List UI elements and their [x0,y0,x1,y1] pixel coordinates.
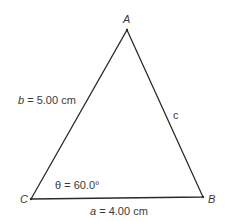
side-c-label: c [173,110,179,121]
triangle-diagram [0,0,233,221]
vertex-a-dot [126,29,128,31]
angle-theta-label: θ = 60.0° [55,180,99,191]
vertex-b-dot [202,196,204,198]
vertex-a-label: A [123,14,130,25]
side-a-value: = 4.00 cm [96,205,148,217]
side-b-label: b = 5.00 cm [18,95,76,106]
vertex-c-dot [30,198,32,200]
vertex-b-label: B [208,194,215,205]
vertex-c-label: C [20,194,28,205]
side-b-value: = 5.00 cm [24,94,76,106]
side-a-label: a = 4.00 cm [90,206,148,217]
